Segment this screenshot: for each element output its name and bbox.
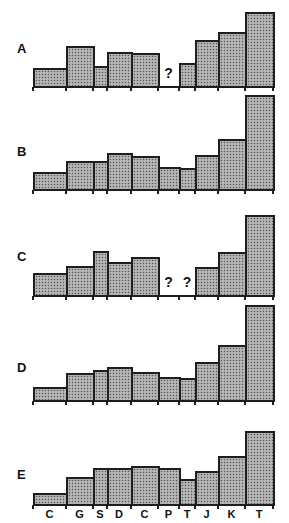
- x-axis-label: K: [218, 508, 245, 520]
- bar-a-g: [66, 46, 95, 88]
- bar-e-g: [66, 477, 95, 506]
- bar-d-t: [245, 305, 275, 402]
- bar-e-t: [245, 431, 275, 506]
- bar-c-g: [66, 266, 95, 297]
- panel-label-e: E: [17, 467, 26, 482]
- bar-c-t: [245, 215, 275, 297]
- x-axis-label: C: [33, 508, 66, 520]
- bar-c-d: [107, 262, 133, 297]
- x-axis-label: C: [131, 508, 158, 520]
- bar-e-d: [107, 468, 133, 506]
- bar-e-c: [131, 466, 160, 506]
- bar-d-c: [33, 387, 68, 402]
- x-axis-label: T: [179, 508, 195, 520]
- bar-a-c: [131, 53, 160, 88]
- x-axis-label: D: [107, 508, 131, 520]
- bar-c-c: [131, 257, 160, 297]
- bar-e-j: [195, 471, 220, 506]
- bar-d-d: [107, 367, 133, 402]
- bar-e-k: [218, 456, 247, 506]
- bar-d-g: [66, 373, 95, 402]
- panel-label-d: D: [17, 360, 26, 375]
- panel-label-a: A: [17, 41, 26, 56]
- x-axis-label: S: [93, 508, 107, 520]
- x-axis-label: T: [245, 508, 273, 520]
- panel-label-b: B: [17, 144, 26, 159]
- bar-c-c: [33, 273, 68, 297]
- bar-b-t: [245, 95, 275, 191]
- bar-e-c: [33, 493, 68, 506]
- bar-b-c: [131, 156, 160, 191]
- bar-c-k: [218, 252, 247, 297]
- bar-a-d: [107, 52, 133, 88]
- bar-a-c: [33, 68, 68, 88]
- bar-c-j: [195, 267, 220, 297]
- bar-b-g: [66, 161, 95, 191]
- bar-d-c: [131, 372, 160, 402]
- panel-label-c: C: [17, 249, 26, 264]
- bar-e-p: [158, 468, 181, 506]
- bar-d-k: [218, 345, 247, 402]
- bar-b-d: [107, 153, 133, 191]
- x-axis-label: P: [158, 508, 179, 520]
- missing-value-marker: ?: [158, 274, 179, 290]
- bar-b-c: [33, 172, 68, 191]
- bar-a-t: [245, 12, 275, 88]
- bar-d-p: [158, 377, 181, 402]
- bar-b-p: [158, 167, 181, 191]
- x-axis-label: G: [66, 508, 93, 520]
- bar-d-j: [195, 362, 220, 402]
- bar-a-k: [218, 32, 247, 88]
- bar-b-j: [195, 155, 220, 191]
- missing-value-marker: ?: [179, 274, 195, 290]
- axis-tick: [178, 296, 180, 300]
- bar-b-k: [218, 139, 247, 191]
- bar-a-j: [195, 40, 220, 88]
- x-axis-label: J: [195, 508, 218, 520]
- missing-value-marker: ?: [158, 65, 179, 81]
